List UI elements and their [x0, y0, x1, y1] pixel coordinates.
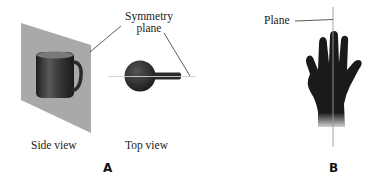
side-view-label: Side view	[31, 139, 77, 151]
leader-line-top	[164, 33, 190, 76]
callout-line-1: Symmetry	[123, 10, 175, 22]
hand-silhouette	[306, 31, 362, 127]
leader-line-side	[90, 26, 121, 52]
leader-line-plane	[295, 20, 333, 22]
callout-line-2: plane	[123, 22, 175, 34]
panel-letter-b: B	[329, 161, 338, 175]
plane-label: Plane	[264, 14, 290, 26]
top-view-label: Top view	[125, 139, 168, 151]
symmetry-figure: Symmetry plane Side view Top view A Plan…	[0, 0, 386, 184]
mug-top-view	[108, 61, 196, 92]
panel-letter-a: A	[103, 161, 112, 175]
figure-graphics	[0, 0, 386, 184]
symmetry-plane-label: Symmetry plane	[123, 10, 175, 34]
